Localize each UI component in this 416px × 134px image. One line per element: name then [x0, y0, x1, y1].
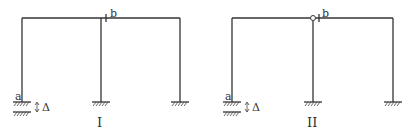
- label-a: a: [225, 90, 232, 103]
- frame-II: b a Δ II: [223, 7, 402, 130]
- settled-ground: [223, 112, 241, 116]
- settled-ground: [13, 112, 31, 116]
- label-delta: Δ: [42, 101, 50, 114]
- label-a: a: [15, 90, 22, 103]
- fixed-support-a: [223, 102, 241, 106]
- label-b: b: [110, 7, 117, 20]
- frame-I: b a Δ I: [13, 7, 189, 130]
- fixed-support-mid: [304, 102, 322, 106]
- label-delta: Δ: [252, 101, 260, 114]
- fixed-support-right: [384, 102, 402, 106]
- fixed-support-a: [13, 102, 31, 106]
- fixed-support-mid: [92, 102, 110, 106]
- label-b: b: [322, 7, 329, 20]
- frames-diagram: b a Δ I b a Δ II: [0, 0, 416, 134]
- fixed-support-right: [171, 102, 189, 106]
- caption-II: II: [307, 115, 317, 130]
- hinge-b: [311, 16, 316, 21]
- caption-I: I: [97, 115, 102, 130]
